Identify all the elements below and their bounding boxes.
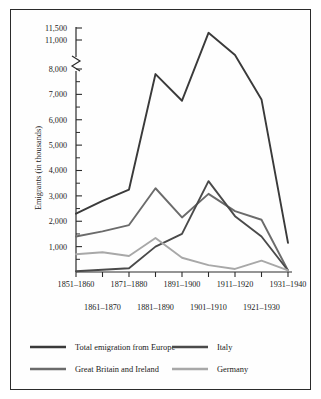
y-tick-label: 11,500 <box>45 24 67 33</box>
x-tick-labels: 1851–18601861–18701871–18801881–18901891… <box>58 280 307 312</box>
x-tick-label: 1891–1900 <box>164 280 201 289</box>
legend-label: Great Britain and Ireland <box>75 365 160 374</box>
axis-group <box>72 27 292 277</box>
series-group <box>76 33 288 271</box>
x-tick-label: 1911–1920 <box>217 280 254 289</box>
x-tick-label: 1851–1860 <box>58 280 95 289</box>
series-line-germany <box>76 238 288 270</box>
y-tick-label: 11,000 <box>45 36 67 45</box>
chart-legend: Total emigration from EuropeItalyGreat B… <box>30 343 249 374</box>
plot-area: 1,0002,0003,0004,0005,0006,0007,0008,000… <box>0 0 321 399</box>
x-tick-label: 1871–1880 <box>111 280 148 289</box>
y-tick-label: 2,000 <box>49 217 67 226</box>
x-tick-label: 1861–1870 <box>84 303 121 312</box>
y-tick-label: 8,000 <box>49 65 67 74</box>
y-tick-label: 6,000 <box>49 116 67 125</box>
x-tick-label: 1901–1910 <box>190 303 227 312</box>
figure-container: 1,0002,0003,0004,0005,0006,0007,0008,000… <box>0 0 321 399</box>
y-axis-title-text: Emigrants (in thousands) <box>34 126 43 210</box>
line-chart: 1,0002,0003,0004,0005,0006,0007,0008,000… <box>0 0 321 399</box>
legend-label: Germany <box>217 365 249 374</box>
x-tick-label: 1921–1930 <box>243 303 280 312</box>
y-tick-label: 7,000 <box>49 90 67 99</box>
y-tick-label: 1,000 <box>49 243 67 252</box>
y-tick-label: 3,000 <box>49 192 67 201</box>
y-tick-label: 4,000 <box>49 166 67 175</box>
y-tick-label: 5,000 <box>49 141 67 150</box>
series-line-total-emigration-from-europe <box>76 33 288 243</box>
legend-label: Italy <box>217 343 233 352</box>
x-tick-label: 1931–1940 <box>270 280 307 289</box>
x-tick-label: 1881–1890 <box>137 303 174 312</box>
y-axis-title: Emigrants (in thousands) <box>34 126 43 210</box>
y-tick-labels: 1,0002,0003,0004,0005,0006,0007,0008,000… <box>45 24 67 252</box>
legend-label: Total emigration from Europe <box>75 343 175 352</box>
